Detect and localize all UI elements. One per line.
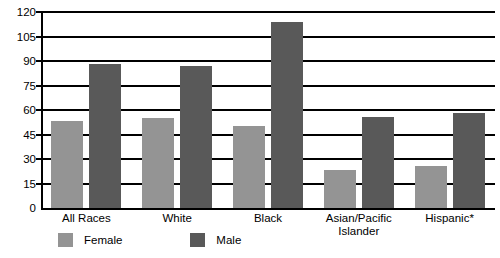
legend: Female Male — [58, 233, 241, 247]
bar-male — [362, 117, 394, 208]
x-axis-line — [41, 208, 495, 210]
x-axis-category-label: White — [132, 212, 223, 225]
legend-label-male: Male — [216, 234, 241, 246]
legend-label-female: Female — [84, 234, 122, 246]
legend-swatch-male — [190, 233, 205, 247]
y-axis-tick-label: 60 — [23, 104, 36, 116]
x-axis-category-label: All Races — [41, 212, 132, 225]
y-axis-tick-label: 120 — [17, 6, 36, 18]
y-axis-labels: 0153045607590105120 — [0, 12, 36, 208]
bar-male — [180, 66, 212, 208]
x-axis-category-label: Asian/Pacific Islander — [313, 212, 404, 237]
legend-spacer — [122, 240, 190, 241]
y-axis-tick-label: 30 — [23, 153, 36, 165]
y-axis-tick-label: 75 — [23, 80, 36, 92]
legend-item-female: Female — [58, 233, 122, 247]
plot-area — [41, 12, 495, 208]
legend-item-male: Male — [190, 233, 241, 247]
bar-male — [453, 113, 485, 208]
bar-group — [142, 12, 212, 208]
bar-group — [415, 12, 485, 208]
bar-group — [324, 12, 394, 208]
y-axis-tick-label: 105 — [17, 31, 36, 43]
bar-chart: 0153045607590105120 All RacesWhiteBlackA… — [0, 0, 500, 258]
bar-male — [271, 22, 303, 208]
y-axis-tick-label: 45 — [23, 129, 36, 141]
bar-group — [233, 12, 303, 208]
x-axis-category-label: Hispanic* — [404, 212, 495, 225]
y-axis-tick-label: 90 — [23, 55, 36, 67]
bar-female — [415, 166, 447, 208]
bar-female — [142, 118, 174, 208]
y-axis-tick-label: 0 — [30, 202, 36, 214]
bar-female — [324, 170, 356, 208]
legend-swatch-female — [58, 233, 73, 247]
bar-female — [233, 126, 265, 208]
y-axis-line — [41, 12, 43, 210]
bar-male — [89, 64, 121, 208]
bar-group — [51, 12, 121, 208]
bar-female — [51, 121, 83, 208]
y-axis-tick-label: 15 — [23, 178, 36, 190]
x-axis-category-label: Black — [223, 212, 314, 225]
